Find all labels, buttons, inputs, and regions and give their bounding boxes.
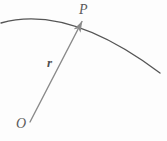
label-origin-o: O — [16, 117, 26, 131]
label-vector-r: r — [47, 56, 52, 69]
trajectory-arc — [1, 19, 160, 73]
position-vector-r — [30, 22, 82, 123]
label-point-p: P — [79, 3, 88, 17]
figure-container: P r O — [0, 0, 167, 141]
